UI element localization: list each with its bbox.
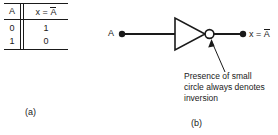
table-header-output: x = A <box>24 7 68 17</box>
inverter-triangle-icon <box>175 18 205 50</box>
output-terminal-dot <box>240 31 246 37</box>
annotation-line-1: Presence of small <box>184 71 278 82</box>
table-cell-input-0: 0 <box>4 24 20 33</box>
table-rule-bottom <box>4 49 68 50</box>
annotation-line-2: circle always denotes <box>184 82 278 93</box>
figure-inverter: A x = A 0 1 1 0 A x = <box>0 0 278 135</box>
gate-input-label: A <box>108 29 114 38</box>
gate-output-prefix: x = <box>249 29 264 39</box>
annotation-arrowhead-icon <box>208 39 214 48</box>
table-cell-input-1: 1 <box>4 37 20 46</box>
table-cell-output-0: 1 <box>24 24 68 33</box>
annotation-text: Presence of small circle always denotes … <box>184 71 278 104</box>
table-divider-left <box>20 3 21 49</box>
gate-output-var-overbar: A <box>264 29 270 39</box>
table-header-output-var-overbar: A <box>50 7 56 17</box>
gate-output-label: x = A <box>249 29 270 39</box>
inversion-bubble-icon <box>205 30 214 39</box>
truth-table: A x = A 0 1 1 0 <box>4 3 68 50</box>
input-terminal-dot <box>119 31 125 37</box>
caption-a: (a) <box>25 108 36 117</box>
annotation-line-3: inversion <box>184 93 278 104</box>
caption-b: (b) <box>191 119 202 128</box>
table-header-output-prefix: x = <box>36 7 51 17</box>
table-cell-output-1: 0 <box>24 37 68 46</box>
table-rule-header <box>4 19 68 20</box>
table-rule-top <box>4 3 68 4</box>
table-header-input: A <box>4 7 20 16</box>
